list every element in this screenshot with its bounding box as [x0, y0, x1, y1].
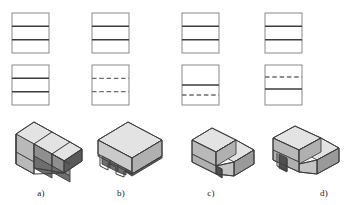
front-view-d — [265, 65, 302, 105]
top-view-d — [265, 13, 302, 53]
figure-label-b: b) — [106, 188, 136, 198]
top-view-c — [182, 13, 219, 53]
orthographic-views-a — [8, 8, 56, 113]
orthographic-views-c — [178, 8, 226, 113]
isometric-shape-b — [88, 114, 172, 188]
top-view-a — [12, 13, 49, 53]
isometric-shape-a — [10, 114, 86, 188]
isometric-shape-d — [259, 114, 349, 188]
orthographic-views-d — [261, 8, 309, 113]
figure-label-d: d) — [309, 188, 339, 198]
orthographic-views-b — [88, 8, 136, 113]
front-view-a — [12, 65, 49, 105]
top-view-b — [92, 13, 129, 53]
front-view-c — [182, 65, 219, 105]
figure-label-c: c) — [196, 188, 226, 198]
multiview-projection-figure: a) — [0, 0, 359, 205]
isometric-shape-c — [178, 114, 262, 188]
figure-label-a: a) — [26, 188, 56, 198]
front-view-b — [92, 65, 129, 105]
